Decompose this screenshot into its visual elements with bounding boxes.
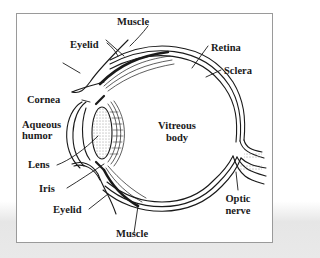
label-muscle-bottom: Muscle <box>116 228 148 239</box>
label-lens: Lens <box>28 159 50 170</box>
label-muscle-top: Muscle <box>117 16 149 27</box>
label-cornea: Cornea <box>27 94 60 105</box>
label-aqueous-line2: humor <box>22 130 52 141</box>
label-retina: Retina <box>211 42 241 53</box>
optic-nerve <box>233 140 266 184</box>
label-eyelid-bottom: Eyelid <box>53 204 82 215</box>
label-sclera: Sclera <box>224 65 252 76</box>
cornea <box>67 102 82 168</box>
label-optic-line2: nerve <box>221 205 255 216</box>
label-optic-line1: Optic <box>221 193 255 204</box>
label-aqueous-line1: Aqueous <box>22 119 61 130</box>
label-iris: Iris <box>39 183 55 194</box>
label-eyelid-top: Eyelid <box>70 39 99 50</box>
lens <box>92 107 112 159</box>
label-vitreous-line2: body <box>152 132 202 143</box>
label-vitreous-line1: Vitreous <box>152 120 202 131</box>
